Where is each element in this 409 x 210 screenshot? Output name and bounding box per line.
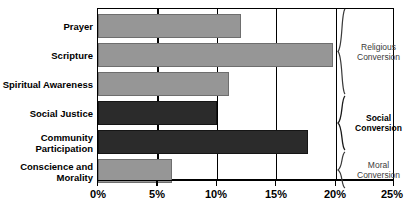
- bar-community-participation: [98, 130, 308, 154]
- category-label-text: Scripture: [51, 50, 93, 61]
- x-tick-15: [275, 180, 276, 186]
- category-label-spiritual-awareness: Spiritual Awareness: [0, 80, 93, 91]
- category-label-conscience-and-morality: Conscience and Morality: [0, 162, 93, 183]
- group-moral-conversion: Moral Conversion: [336, 151, 409, 189]
- category-label-social-justice: Social Justice: [0, 109, 93, 120]
- category-label-text: Prayer: [63, 21, 93, 32]
- bar-scripture: [98, 43, 333, 67]
- group-label-text: Social: [366, 113, 391, 123]
- category-label-text: Conscience and: [20, 161, 93, 172]
- category-label-text: Morality: [57, 172, 93, 183]
- bar-prayer: [98, 14, 241, 38]
- x-axis-labels: 0% 5% 10% 15% 20% 25%: [0, 188, 409, 206]
- x-tick-5: [156, 180, 157, 186]
- x-axis-label-5: 5%: [137, 188, 177, 200]
- x-tick-0: [97, 180, 98, 186]
- curly-brace-icon: [336, 8, 347, 95]
- curly-brace-icon: [336, 151, 347, 189]
- x-axis-label-15: 15%: [256, 188, 296, 200]
- category-label-text: Community: [41, 132, 93, 143]
- category-label-community-participation: Community Participation: [0, 133, 93, 154]
- group-religious-conversion: Religious Conversion: [336, 8, 409, 95]
- group-label-religious-conversion: Religious Conversion: [347, 42, 409, 62]
- x-axis-label-0: 0%: [78, 188, 118, 200]
- category-label-prayer: Prayer: [0, 22, 93, 33]
- category-label-text: Social Justice: [30, 108, 93, 119]
- x-axis-label-25: 25%: [372, 188, 409, 200]
- curly-brace-icon: [336, 95, 347, 151]
- group-label-text: Conversion: [355, 123, 402, 133]
- x-tick-10: [216, 180, 217, 186]
- category-label-text: Participation: [35, 143, 93, 154]
- x-axis-label-10: 10%: [196, 188, 236, 200]
- bar-chart: Prayer Scripture Spiritual Awareness Soc…: [0, 0, 409, 210]
- bar-social-justice: [98, 101, 217, 125]
- x-axis-label-20: 20%: [315, 188, 355, 200]
- group-label-text: Conversion: [357, 170, 400, 180]
- category-label-scripture: Scripture: [0, 51, 93, 62]
- category-label-text: Spiritual Awareness: [3, 79, 93, 90]
- group-label-social-conversion: Social Conversion: [347, 113, 409, 133]
- bar-spiritual-awareness: [98, 72, 229, 96]
- group-label-moral-conversion: Moral Conversion: [347, 160, 409, 180]
- group-label-text: Conversion: [357, 52, 400, 62]
- group-annotations: Religious Conversion Social Conversion: [336, 8, 409, 180]
- group-social-conversion: Social Conversion: [336, 95, 409, 151]
- category-axis-labels: Prayer Scripture Spiritual Awareness Soc…: [0, 8, 93, 180]
- group-label-text: Moral: [368, 160, 389, 170]
- group-label-text: Religious: [361, 42, 396, 52]
